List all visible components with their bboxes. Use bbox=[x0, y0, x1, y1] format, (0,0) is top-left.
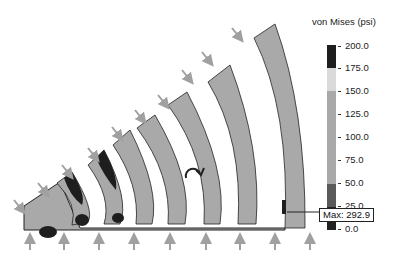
tick-mark bbox=[338, 46, 341, 47]
color-scale-bar bbox=[327, 45, 336, 230]
tick-label: 50.0 bbox=[345, 178, 364, 188]
tick-mark bbox=[338, 68, 341, 69]
tick-label: 175.0 bbox=[345, 63, 369, 73]
tick-label: 0.0 bbox=[345, 224, 358, 234]
tick-label: 100.0 bbox=[345, 132, 369, 142]
tick-mark bbox=[338, 160, 341, 161]
scale-segment-25-50 bbox=[327, 184, 336, 207]
part-body bbox=[24, 24, 305, 238]
max-value-label: Max: 292.9 bbox=[319, 208, 374, 222]
tick-mark bbox=[338, 137, 341, 138]
tick-label: 200.0 bbox=[345, 41, 369, 51]
tick-label: 125.0 bbox=[345, 109, 369, 119]
stress-plot bbox=[0, 0, 400, 262]
tick-mark bbox=[338, 183, 341, 184]
tick-mark bbox=[338, 206, 341, 207]
tick-mark bbox=[338, 114, 341, 115]
tick-mark bbox=[338, 229, 341, 230]
scale-segment-175-200 bbox=[327, 45, 336, 68]
fixture-arrows bbox=[30, 238, 310, 250]
scale-segment-50-150 bbox=[327, 91, 336, 184]
tick-label: 150.0 bbox=[345, 86, 369, 96]
tick-label: 75.0 bbox=[345, 155, 364, 165]
tick-mark bbox=[338, 91, 341, 92]
scale-segment-150-175 bbox=[327, 68, 336, 91]
legend-title: von Mises (psi) bbox=[312, 16, 376, 27]
